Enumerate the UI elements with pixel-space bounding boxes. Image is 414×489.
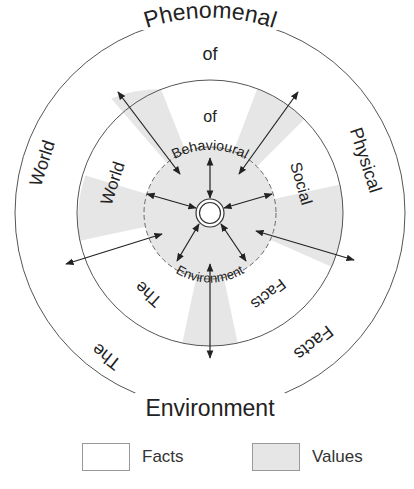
environment-diagram: Phenomenal of World Physical The Facts E… (0, 0, 414, 438)
legend-item-values: Values (252, 443, 363, 471)
label-environment-outer: Environment (145, 395, 275, 421)
label-outer-of: of (202, 44, 218, 64)
core-inner-ring (200, 203, 221, 224)
values-swatch (252, 443, 300, 471)
legend-item-facts: Facts (82, 443, 184, 471)
legend-label-facts: Facts (142, 447, 184, 467)
legend: Facts Values (0, 438, 414, 478)
facts-swatch (82, 443, 130, 471)
legend-label-values: Values (312, 447, 363, 467)
label-middle-of: of (203, 108, 217, 125)
